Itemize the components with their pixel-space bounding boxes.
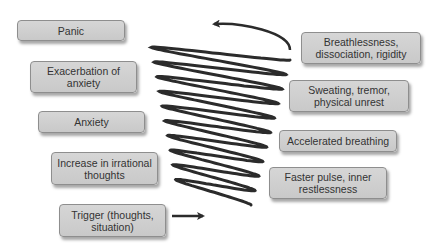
box-anxiety: Anxiety xyxy=(38,111,145,133)
box-label: Trigger (thoughts, situation) xyxy=(64,209,161,233)
box-label: Increase in irrational thoughts xyxy=(56,157,153,181)
box-panic: Panic xyxy=(17,20,125,41)
box-exacerbation: Exacerbation of anxiety xyxy=(30,61,137,93)
exit-arrow-icon xyxy=(214,24,290,50)
box-accelerated-breathing: Accelerated breathing xyxy=(279,130,397,152)
box-breathlessness: Breathlessness, dissociation, rigidity xyxy=(301,32,421,64)
box-label: Panic xyxy=(58,25,84,37)
box-faster-pulse: Faster pulse, inner restlessness xyxy=(269,167,387,199)
box-label: Accelerated breathing xyxy=(287,135,389,147)
box-label: Faster pulse, inner restlessness xyxy=(274,171,382,195)
box-label: Exacerbation of anxiety xyxy=(35,65,132,89)
box-trigger: Trigger (thoughts, situation) xyxy=(59,204,166,237)
box-label: Sweating, tremor, physical unrest xyxy=(294,84,404,108)
box-sweating: Sweating, tremor, physical unrest xyxy=(289,80,409,112)
box-irrational-thoughts: Increase in irrational thoughts xyxy=(51,152,158,185)
box-label: Breathlessness, dissociation, rigidity xyxy=(306,36,416,60)
box-label: Anxiety xyxy=(74,116,108,128)
